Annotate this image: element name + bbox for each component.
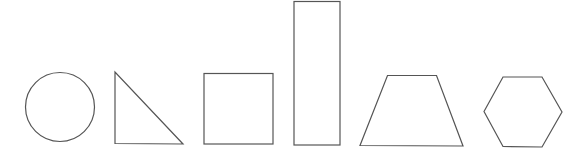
rectangle-shape xyxy=(294,2,340,146)
hexagon-shape xyxy=(484,77,562,147)
circle-shape xyxy=(26,73,95,142)
shapes-canvas xyxy=(0,0,580,158)
right-triangle-shape xyxy=(115,72,183,144)
trapezoid-shape xyxy=(360,76,463,147)
square-shape xyxy=(204,74,273,145)
